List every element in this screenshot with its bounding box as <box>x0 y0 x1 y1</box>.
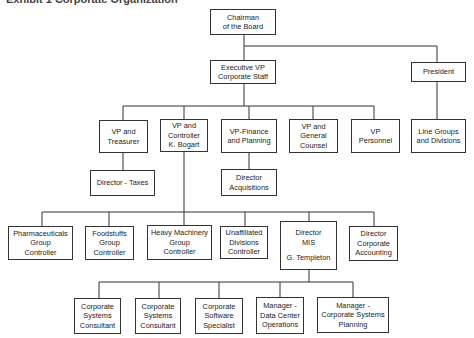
node-label: Accounting <box>355 248 392 257</box>
node-label: K. Bogart <box>169 140 200 149</box>
node-corporate-software-specialist: Corporate Software Specialist <box>195 298 243 334</box>
node-label: Group <box>30 238 51 247</box>
node-label: Director <box>361 229 387 238</box>
node-manager-systems-planning: Manager - Corporate Systems Planning <box>317 297 389 333</box>
node-label: Corporate <box>203 302 236 311</box>
node-label: Controller <box>168 131 200 140</box>
node-line-groups: Line Groups and Divisions <box>411 119 466 153</box>
node-label: Divisions <box>229 238 259 247</box>
node-label: General <box>300 131 326 140</box>
node-unaffiliated: Unaffiliated Divisions Controller <box>220 226 268 259</box>
node-label: Systems <box>83 311 111 320</box>
node-label: VP and <box>301 122 325 131</box>
node-label: Chairman <box>227 13 259 22</box>
node-label: Executive VP <box>221 63 265 72</box>
node-director-mis: Director MIS G. Templeton <box>280 221 337 270</box>
node-label: Controller <box>228 247 260 256</box>
node-label: and Divisions <box>417 136 461 145</box>
node-label: G. Templeton <box>287 253 331 262</box>
node-label: Group <box>169 238 190 247</box>
node-label: Software <box>204 311 233 320</box>
node-label: Line Groups <box>418 127 458 136</box>
node-label: Manager - <box>336 301 370 310</box>
node-label: Group <box>99 238 120 247</box>
node-label: of the Board <box>223 22 263 31</box>
node-vp-counsel: VP and General Counsel <box>289 119 338 153</box>
node-director-accounting: Director Corporate Accounting <box>349 226 398 261</box>
node-label: VP-Finance <box>230 127 269 136</box>
node-label: Controller <box>24 248 56 257</box>
node-pharmaceuticals: Pharmaceuticals Group Controller <box>8 226 73 260</box>
node-director-acquisitions: Director Acquisitions <box>221 169 277 196</box>
node-label: Planning <box>339 320 368 329</box>
node-label: Unaffiliated <box>226 228 263 237</box>
node-label: Systems <box>144 311 172 320</box>
node-vp-finance: VP-Finance and Planning <box>221 119 277 153</box>
node-corporate-systems-consultant-1: Corporate Systems Consultant <box>74 298 121 334</box>
node-president: President <box>411 62 466 82</box>
node-label: Corporate Systems <box>321 310 384 319</box>
node-label: Pharmaceuticals <box>13 229 68 238</box>
node-label: Specialist <box>203 321 235 330</box>
node-vp-personnel: VP Personnel <box>351 119 400 153</box>
node-label: VP <box>371 127 381 136</box>
node-label: and Planning <box>227 136 270 145</box>
node-label: MIS <box>302 238 315 247</box>
node-label: Data Center <box>260 311 300 320</box>
node-label: Consultant <box>80 321 115 330</box>
node-label: Personnel <box>359 136 392 145</box>
node-label: Consultant <box>140 321 175 330</box>
node-executive-vp: Executive VP Corporate Staff <box>210 60 276 84</box>
node-label: Counsel <box>300 141 327 150</box>
node-label: Operations <box>262 320 298 329</box>
node-label: Acquisitions <box>229 183 268 192</box>
node-label: Controller <box>93 248 125 257</box>
node-chairman: Chairman of the Board <box>210 9 276 35</box>
node-heavy-machinery: Heavy Machinery Group Controller <box>147 225 212 260</box>
node-corporate-systems-consultant-2: Corporate Systems Consultant <box>135 298 181 334</box>
node-label: Foodstuffs <box>92 229 126 238</box>
node-label: Corporate <box>142 302 175 311</box>
node-foodstuffs: Foodstuffs Group Controller <box>85 226 134 260</box>
node-label: Corporate Staff <box>218 72 268 81</box>
node-label: VP and <box>172 121 196 130</box>
node-label: Treasurer <box>108 137 140 146</box>
node-label: Corporate <box>357 239 390 248</box>
node-label: VP and <box>111 127 135 136</box>
node-vp-controller: VP and Controller K. Bogart <box>160 119 208 152</box>
node-label: Controller <box>163 247 195 256</box>
node-label: Director - Taxes <box>97 178 149 187</box>
node-manager-data-center: Manager - Data Center Operations <box>256 297 304 334</box>
node-label: Corporate <box>81 302 114 311</box>
node-director-taxes: Director - Taxes <box>90 170 155 196</box>
node-label: President <box>423 67 454 76</box>
node-label: Director <box>296 228 322 237</box>
node-label: Manager - <box>263 301 297 310</box>
node-label: Heavy Machinery <box>151 228 208 237</box>
node-label: Director <box>236 173 262 182</box>
node-vp-treasurer: VP and Treasurer <box>99 120 148 153</box>
